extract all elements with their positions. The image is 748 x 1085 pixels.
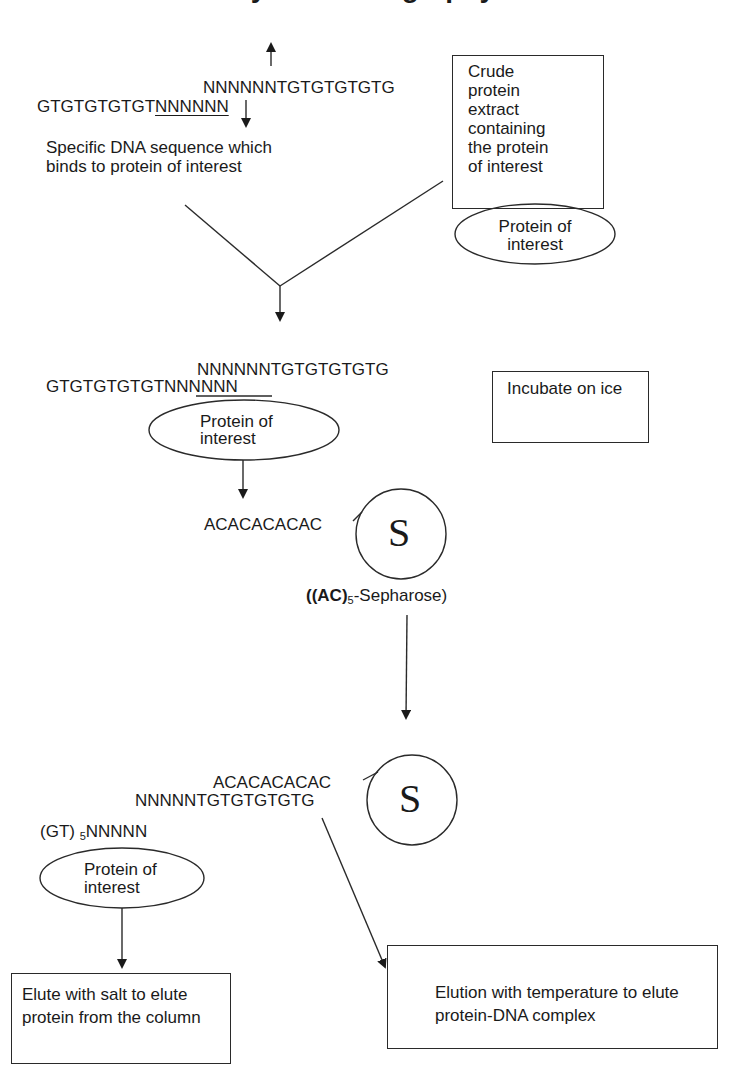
crude-line: extract — [468, 100, 603, 119]
down-arrow-step3 — [406, 615, 407, 718]
incubate-text: Incubate on ice — [507, 379, 627, 398]
crude-line: Crude — [468, 62, 603, 81]
resin-post: -Sepharose) — [354, 586, 448, 605]
bottom-strand-step2: GTGTGTGTGTNNNNNN — [46, 377, 238, 396]
salt-elution-text: Elute with salt to elute protein from th… — [22, 983, 212, 1029]
gt-prefix: (GT) — [40, 822, 80, 841]
top-strand-step1: NNNNNNTGTGTGTGTG — [203, 78, 395, 97]
resin-pre: ((AC) — [306, 586, 348, 605]
crude-line: the protein — [468, 138, 603, 157]
protein-label-step1: Protein of interest — [480, 218, 590, 254]
crude-extract-box: Crude protein extract containing the pro… — [452, 55, 604, 209]
temperature-elution-text: Elution with temperature to elute protei… — [435, 981, 715, 1027]
gt-strand-step4: (GT) 5NNNNN — [40, 822, 147, 846]
converge-line-left — [185, 205, 280, 286]
dna-label: Specific DNA sequence which binds to pro… — [46, 138, 296, 176]
protein-label-step4: Protein of interest — [84, 861, 194, 897]
crude-line: of interest — [468, 157, 603, 176]
bead-label-step4: S — [399, 779, 421, 819]
converge-line-right — [280, 181, 443, 286]
resin-label: ((AC)5-Sepharose) — [306, 586, 447, 610]
middle-strand-step4: NNNNNTGTGTGTGTG — [135, 791, 314, 810]
strand-prefix: GTGTGTGTGT — [46, 377, 164, 396]
salt-elution-box: Elute with salt to elute protein from th… — [11, 973, 231, 1064]
protein-label-step2: Protein of interest — [200, 413, 310, 447]
temperature-elution-box: Elution with temperature to elute protei… — [387, 945, 718, 1049]
ac-strand-step3: ACACACACAC — [204, 515, 322, 534]
gt-suffix: NNNNN — [86, 822, 147, 841]
bead-label-step3: S — [388, 513, 410, 553]
diagonal-arrow-temp — [322, 818, 385, 967]
binding-site: NNNNNN — [164, 377, 238, 396]
crude-line: containing — [468, 119, 603, 138]
bottom-strand-step1: GTGTGTGTGTNNNNNN — [37, 97, 229, 116]
ac-strand-step4: ACACACACAC — [213, 773, 331, 792]
binding-site: NNNNNN — [155, 97, 229, 116]
crude-line: protein — [468, 81, 603, 100]
strand-prefix: GTGTGTGTGT — [37, 97, 155, 116]
incubate-box: Incubate on ice — [492, 371, 649, 443]
